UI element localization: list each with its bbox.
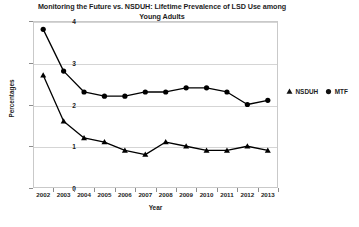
x-axis-tick-mark: [278, 188, 279, 192]
series-line: [43, 29, 268, 104]
circle-marker-icon: [265, 98, 270, 103]
data-series-layer: [33, 21, 278, 188]
chart-title-line-1: Monitoring the Future vs. NSDUH: Lifetim…: [26, 2, 298, 12]
triangle-marker-icon: [244, 143, 250, 148]
triangle-marker-icon: [61, 118, 67, 123]
circle-marker-icon: [143, 89, 148, 94]
triangle-marker-icon: [286, 88, 293, 95]
triangle-marker-icon: [163, 139, 169, 144]
triangle-marker-icon: [287, 89, 293, 94]
y-axis-tick-mark: [29, 188, 33, 189]
series-mtf: [41, 27, 271, 107]
series-line: [43, 75, 268, 154]
x-axis-tick-label: 2013: [253, 191, 283, 198]
legend-label: MTF: [335, 88, 348, 95]
circle-marker-icon: [41, 27, 46, 32]
circle-marker-icon: [102, 94, 107, 99]
circle-marker-icon: [204, 85, 209, 90]
circle-marker-icon: [325, 88, 332, 95]
chart-container: Monitoring the Future vs. NSDUH: Lifetim…: [0, 0, 359, 227]
legend-entry-nsduh[interactable]: NSDUH: [286, 88, 318, 95]
circle-marker-icon: [245, 102, 250, 107]
x-axis-title: Year: [33, 204, 278, 211]
chart-legend: NSDUHMTF: [286, 88, 348, 95]
legend-label: NSDUH: [296, 88, 319, 95]
legend-entry-mtf[interactable]: MTF: [325, 88, 348, 95]
triangle-marker-icon: [40, 72, 46, 77]
circle-marker-icon: [184, 85, 189, 90]
y-axis-title: Percentages: [8, 69, 15, 129]
circle-marker-icon: [163, 89, 168, 94]
circle-marker-icon: [81, 89, 86, 94]
circle-marker-icon: [61, 69, 66, 74]
circle-marker-icon: [326, 89, 331, 94]
series-nsduh: [40, 72, 271, 157]
circle-marker-icon: [224, 89, 229, 94]
circle-marker-icon: [122, 94, 127, 99]
